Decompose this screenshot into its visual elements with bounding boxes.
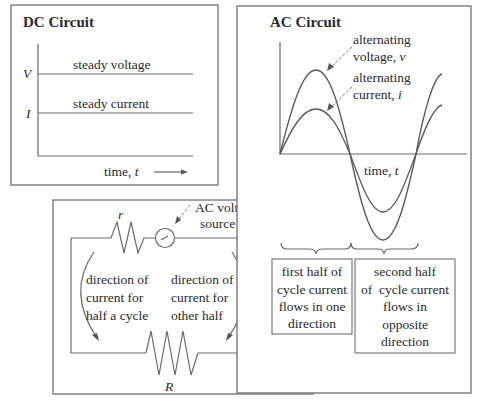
svg-text:second half: second half [374, 264, 436, 279]
dc-panel: DC Circuit V I steady voltage steady cur… [11, 5, 218, 185]
svg-text:opposite: opposite [382, 317, 428, 332]
source-label-line2: source [200, 216, 235, 231]
svg-text:flows in: flows in [383, 299, 427, 314]
svg-text:direction of: direction of [171, 272, 234, 287]
second-half-box: second half of cycle current flows in op… [355, 259, 455, 353]
ac-panel-title: AC Circuit [270, 14, 341, 30]
svg-text:flows in one: flows in one [279, 299, 346, 314]
current-label-line2: current, i [353, 87, 402, 102]
dc-time-label: time, t [104, 164, 140, 179]
first-half-box: first half of cycle current flows in one… [272, 259, 352, 334]
ac-dc-diagram: r R AC voltage source direction of curre… [0, 0, 483, 403]
ac-panel: AC Circuit alternating voltage, v altern… [237, 6, 471, 393]
steady-voltage-label: steady voltage [73, 57, 151, 72]
dc-panel-title: DC Circuit [23, 14, 94, 30]
dc-panel-frame [11, 5, 218, 185]
svg-text:other half: other half [171, 308, 224, 323]
svg-text:current for: current for [86, 290, 144, 305]
left-direction-note: direction of current for half a cycle [86, 272, 149, 323]
svg-text:direction of: direction of [86, 272, 149, 287]
large-resistor-label: R [164, 379, 174, 394]
voltage-label-line1: alternating [353, 32, 411, 47]
steady-current-label: steady current [73, 96, 149, 111]
svg-text:of cycle current: of cycle current [361, 282, 449, 297]
current-label-line1: alternating [353, 70, 411, 85]
small-resistor-label: r [118, 207, 124, 222]
svg-text:half a cycle: half a cycle [86, 308, 148, 323]
svg-text:direction: direction [288, 316, 336, 331]
svg-text:first half of: first half of [282, 264, 343, 279]
svg-text:current for: current for [171, 290, 229, 305]
svg-text:direction: direction [381, 334, 429, 349]
ac-time-label: time, t [364, 163, 400, 178]
voltage-label-line2: voltage, v [353, 49, 406, 64]
svg-text:cycle current: cycle current [277, 282, 347, 297]
